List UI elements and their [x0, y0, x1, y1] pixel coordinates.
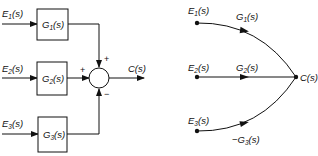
branch-g2-label: G2(s) [236, 62, 258, 74]
g1-to-sum-line [68, 24, 99, 67]
node-e3-label: E3(s) [188, 115, 209, 127]
output-label: C(s) [128, 63, 146, 74]
node-c [294, 75, 298, 79]
block-g2-label: G2(s) [42, 73, 64, 85]
block-g3-label: G3(s) [43, 129, 65, 141]
summing-junction [89, 68, 109, 88]
sum-sign-left: + [80, 65, 85, 75]
sum-sign-bottom: − [104, 89, 109, 99]
input-e3-label: E3(s) [2, 118, 23, 130]
node-e1-label: E1(s) [188, 5, 209, 17]
branch-g3-label: −G3(s) [232, 134, 260, 146]
block-g2: G2(s) [37, 62, 67, 95]
g3-to-sum-line [67, 89, 99, 134]
node-c-label: C(s) [300, 72, 318, 83]
diagram-canvas: E1(s) G1(s) + E2(s) G2(s) + C(s) E3(s) [0, 0, 318, 156]
node-e1 [195, 21, 199, 25]
block-g3: G3(s) [38, 117, 67, 152]
node-e2-label: E2(s) [188, 62, 209, 74]
input-e3: E3(s) [2, 118, 38, 134]
branch-g1-label: G1(s) [236, 11, 258, 23]
signal-flow-graph: G1(s) G2(s) −G3(s) E1(s) E2(s) E3(s) C(s… [188, 5, 318, 146]
input-e2: E2(s) [2, 63, 37, 78]
block-g1-label: G1(s) [42, 19, 64, 31]
sum-sign-top: + [104, 54, 109, 64]
input-e1: E1(s) [2, 8, 37, 24]
input-e2-label: E2(s) [2, 63, 23, 75]
node-e2 [195, 75, 199, 79]
block-g1: G1(s) [37, 9, 68, 40]
input-e1-label: E1(s) [2, 8, 23, 20]
node-e3 [195, 129, 199, 133]
diagram-svg: E1(s) G1(s) + E2(s) G2(s) + C(s) E3(s) [0, 0, 318, 156]
branch-g2-arrow-icon [240, 74, 249, 80]
block-diagram: E1(s) G1(s) + E2(s) G2(s) + C(s) E3(s) [2, 8, 146, 152]
